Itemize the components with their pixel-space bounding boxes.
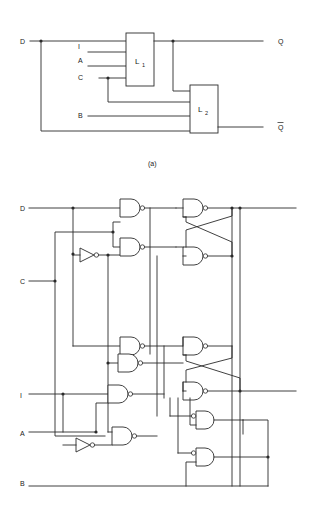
wire-c-into-g1: [113, 222, 120, 232]
nand-gate-10-bubble: [132, 434, 136, 438]
nand-gate-8-bubble: [203, 389, 207, 393]
nand-gate-3: [120, 337, 140, 355]
nand-gate-5-bubble: [203, 206, 207, 210]
nand-gate-7-bubble: [203, 344, 207, 348]
nand-gate-2-bubble: [140, 245, 144, 249]
inverter-2-bubble: [90, 443, 94, 447]
panel-a-caption: (a): [148, 160, 157, 168]
wire-d-branch-to-l2: [41, 41, 190, 131]
inverter-1-bubble: [94, 253, 98, 257]
nand-gate-2: [120, 238, 140, 256]
panel-a-input-a-label: A: [78, 57, 83, 64]
panel-a-output-q-label: Q: [278, 38, 284, 46]
nand-gate-1: [120, 199, 140, 217]
latch-l1-subscript: 1: [142, 62, 145, 68]
and-gate-2: [196, 448, 214, 466]
nand-gate-5: [183, 199, 203, 217]
nand-gate-9: [108, 385, 128, 403]
panel-b-schematic: D C I A B: [0, 186, 309, 506]
wire-c-down: [55, 281, 105, 436]
panel-a-input-c-label: C: [78, 74, 83, 81]
panel-a-schematic: D I A C B L 1 L 2 Q Q: [0, 0, 309, 180]
panel-a-output-q-bar-label: Q: [278, 124, 284, 132]
wire-q-feedback-to-l2: [173, 41, 190, 91]
panel-b-input-b-label: B: [20, 480, 25, 487]
nand-gate-6-bubble: [203, 254, 207, 258]
panel-b-input-c-label: C: [20, 278, 25, 285]
nand-gate-4-bubble: [138, 361, 142, 365]
wire-c-into-g2: [113, 232, 120, 247]
wire-a-up-to-g9: [96, 403, 108, 432]
nand-gate-10: [112, 427, 132, 445]
nand-gate-1-bubble: [140, 206, 144, 210]
inverter-1-body: [80, 248, 94, 262]
inverter-2-body: [76, 438, 90, 452]
nand-gate-7: [183, 337, 203, 355]
figure-canvas: D I A C B L 1 L 2 Q Q: [0, 0, 309, 506]
panel-a-input-i-label: I: [78, 43, 80, 50]
latch-l2-box: [190, 85, 218, 133]
latch-l2-label: L: [198, 105, 203, 114]
panel-a-input-d-label: D: [20, 38, 25, 45]
panel-b-input-i-label: I: [20, 392, 22, 399]
wire-and1-in2: [190, 398, 196, 425]
and-gate-1: [196, 411, 214, 429]
latch-l1-box: [126, 33, 154, 86]
wire-and-interconnect: [243, 420, 268, 457]
latch-l2-subscript: 2: [205, 110, 208, 116]
nand-gate-4: [118, 354, 138, 372]
wire-and2-in2: [186, 462, 196, 486]
panel-a-input-b-label: B: [78, 112, 83, 119]
and-gate-2-input-bubble: [191, 451, 195, 455]
panel-b-input-a-label: A: [20, 430, 25, 437]
and-gate-1-input-bubble: [191, 414, 195, 418]
latch-l1-label: L: [135, 57, 140, 66]
nand-gate-3-bubble: [140, 344, 144, 348]
panel-b-input-d-label: D: [20, 205, 25, 212]
nand-gate-9-bubble: [128, 392, 132, 396]
